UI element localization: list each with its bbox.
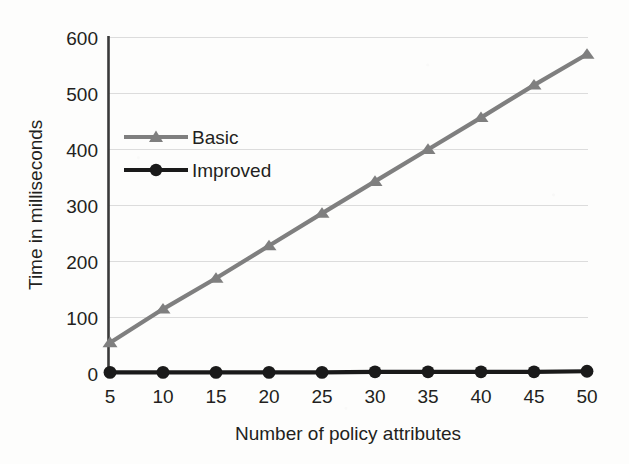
y-tick-labels: 600 500 400 300 200 100 0: [66, 28, 98, 385]
legend-item-improved[interactable]: Improved: [124, 160, 271, 181]
y-tick-label-600: 600: [66, 28, 98, 49]
chart-page: 600 500 400 300 200 100 0 Time in millis…: [0, 0, 629, 464]
legend-label-improved: Improved: [192, 160, 271, 181]
y-tick-label-300: 300: [66, 196, 98, 217]
y-tick-label-100: 100: [66, 308, 98, 329]
y-tick-label-500: 500: [66, 84, 98, 105]
y-tick-label-200: 200: [66, 252, 98, 273]
data-point-marker: [475, 365, 488, 378]
data-point-marker: [263, 366, 276, 379]
data-point-marker: [210, 366, 223, 379]
x-axis-title: Number of policy attributes: [235, 423, 461, 444]
x-tick-label-20: 20: [258, 386, 279, 407]
x-tick-label-45: 45: [523, 386, 544, 407]
chart-legend: Basic Improved: [124, 127, 271, 181]
data-point-marker: [369, 365, 382, 378]
data-point-marker: [580, 48, 595, 59]
x-tick-label-15: 15: [205, 386, 226, 407]
circle-icon: [150, 164, 162, 176]
line-chart: 600 500 400 300 200 100 0 Time in millis…: [0, 0, 629, 464]
x-tick-label-50: 50: [576, 386, 597, 407]
y-tick-label-0: 0: [87, 364, 98, 385]
series-improved-line: [110, 371, 587, 372]
data-point-marker: [157, 366, 170, 379]
data-point-marker: [528, 365, 541, 378]
x-tick-label-10: 10: [152, 386, 173, 407]
series-basic-line: [110, 54, 587, 342]
y-tick-label-400: 400: [66, 140, 98, 161]
y-axis-title: Time in milliseconds: [25, 120, 46, 290]
x-tick-labels: 5 10 15 20 25 30 35 40 45 50: [105, 386, 598, 407]
data-point-marker: [422, 365, 435, 378]
gridlines: [108, 38, 588, 318]
x-tick-label-30: 30: [364, 386, 385, 407]
data-point-marker: [581, 365, 594, 378]
x-tick-label-5: 5: [105, 386, 116, 407]
data-point-marker: [316, 366, 329, 379]
data-point-marker: [104, 366, 117, 379]
legend-label-basic: Basic: [192, 127, 238, 148]
x-tick-label-40: 40: [470, 386, 491, 407]
series-improved: [104, 365, 594, 379]
x-tick-label-25: 25: [311, 386, 332, 407]
x-tick-label-35: 35: [417, 386, 438, 407]
legend-item-basic[interactable]: Basic: [124, 127, 238, 148]
